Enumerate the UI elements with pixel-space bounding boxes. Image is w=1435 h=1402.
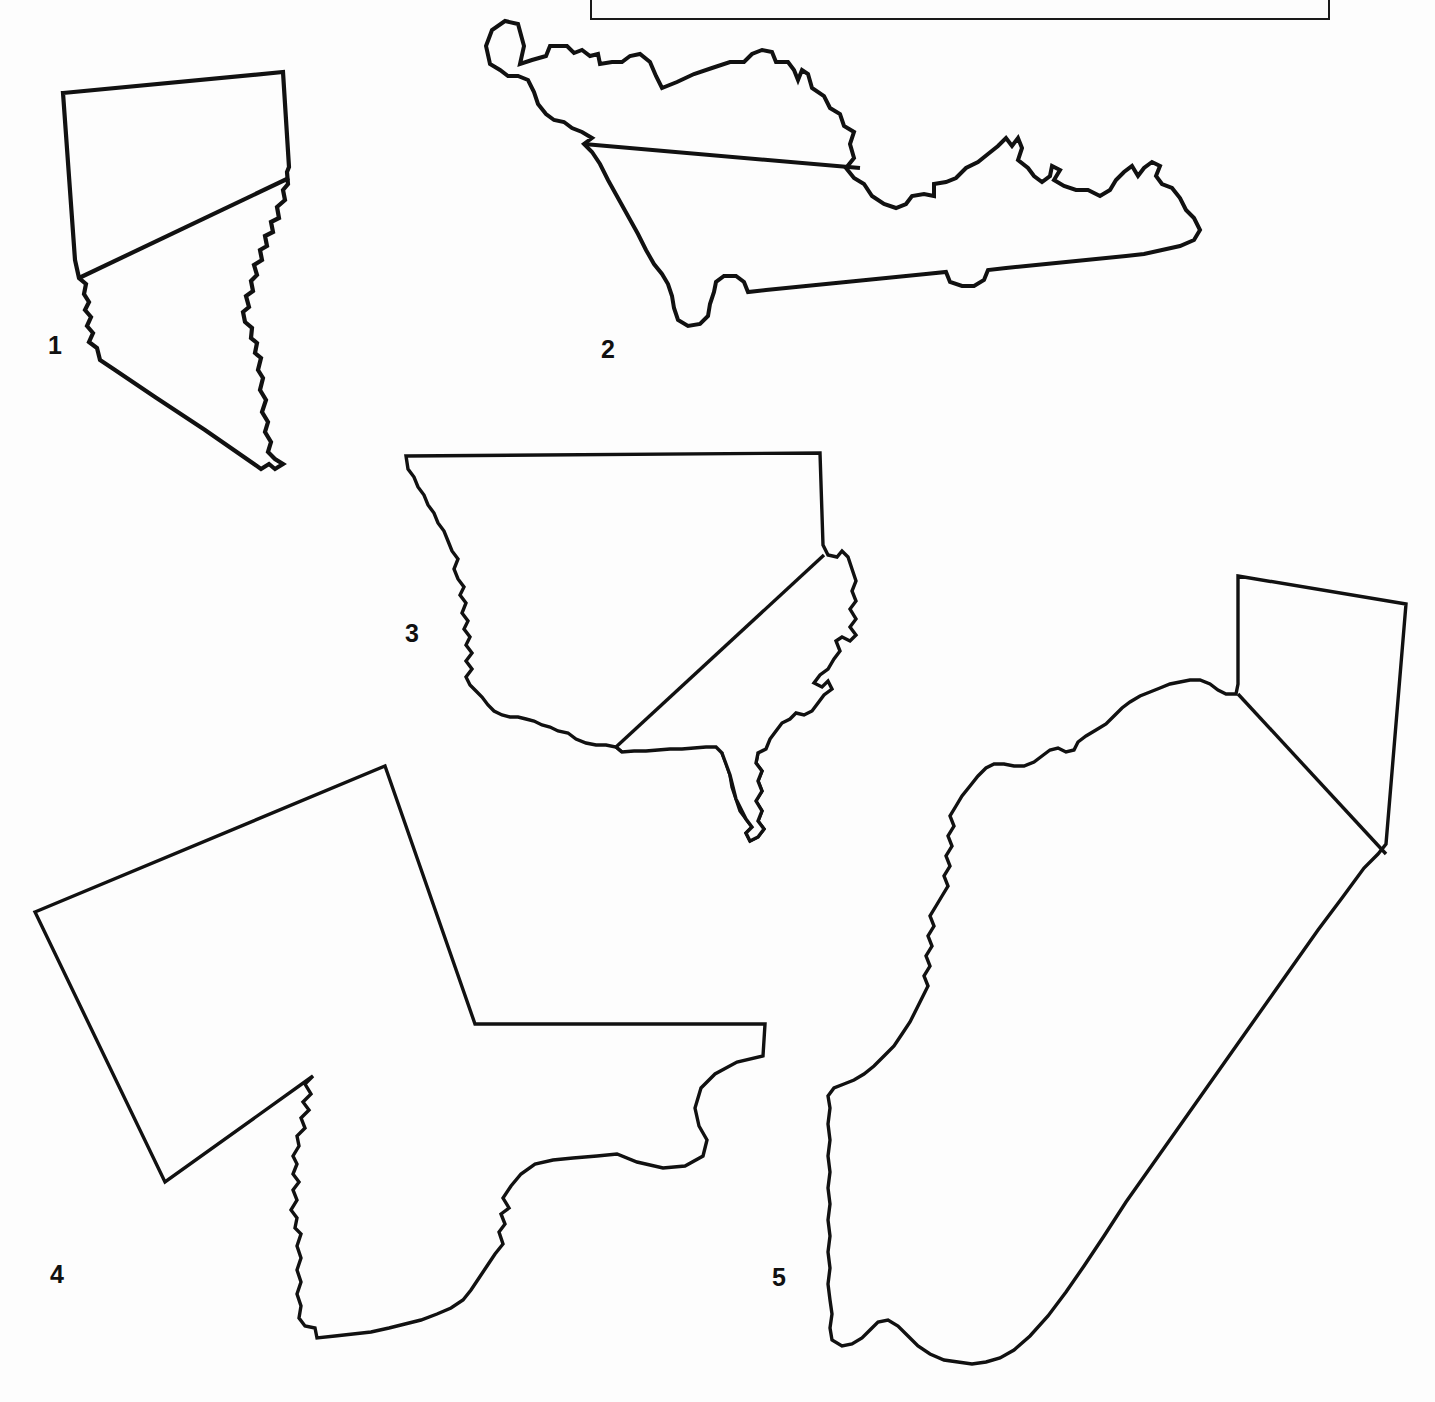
map-shape-2[interactable]	[472, 18, 1212, 338]
map-shape-5[interactable]	[818, 568, 1418, 1388]
shape-5-number-label: 5	[772, 1265, 786, 1290]
answer-box	[590, 0, 1330, 20]
shape-2-svg	[472, 18, 1212, 338]
map-shape-1[interactable]	[55, 60, 305, 490]
shape-4-outline	[35, 766, 765, 1338]
worksheet-page: 1 2 3 4 5	[0, 0, 1435, 1402]
shape-1-svg	[55, 60, 305, 490]
shape-2-outline	[486, 21, 1200, 326]
map-shape-4[interactable]	[25, 762, 770, 1352]
shape-4-svg	[25, 762, 770, 1352]
shape-2-number-label: 2	[601, 337, 615, 362]
shape-4-number-label: 4	[50, 1262, 64, 1287]
shape-3-number-label: 3	[405, 621, 419, 646]
shape-1-number-label: 1	[48, 333, 62, 358]
shape-5-outline	[828, 576, 1406, 1364]
shape-5-svg	[818, 568, 1418, 1388]
